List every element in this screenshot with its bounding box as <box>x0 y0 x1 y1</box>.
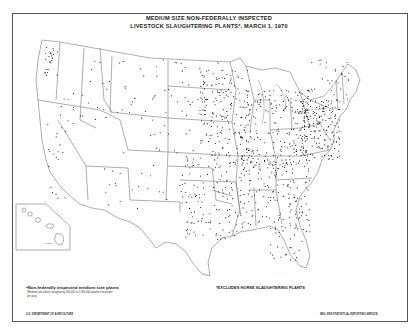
credit-right: NEG. ERS STATISTICAL REPORTING SERVICE <box>320 313 378 316</box>
hawaii-label: HAWAII <box>44 242 53 245</box>
state-boundaries <box>36 40 360 276</box>
legend-note-line2: per year) <box>27 295 37 298</box>
us-map: HAWAII <box>0 0 418 332</box>
credit-left: U.S. DEPARTMENT OF AGRICULTURE <box>26 313 73 316</box>
hawaii-inset <box>16 204 70 250</box>
legend-label: •Non-federally inspected medium size pla… <box>26 285 119 290</box>
footnote: *EXCLUDES HORSE SLAUGHTERING PLANTS <box>216 285 305 290</box>
legend-note-line1: (Medium-size plants slaughtering 300,000… <box>27 291 112 294</box>
